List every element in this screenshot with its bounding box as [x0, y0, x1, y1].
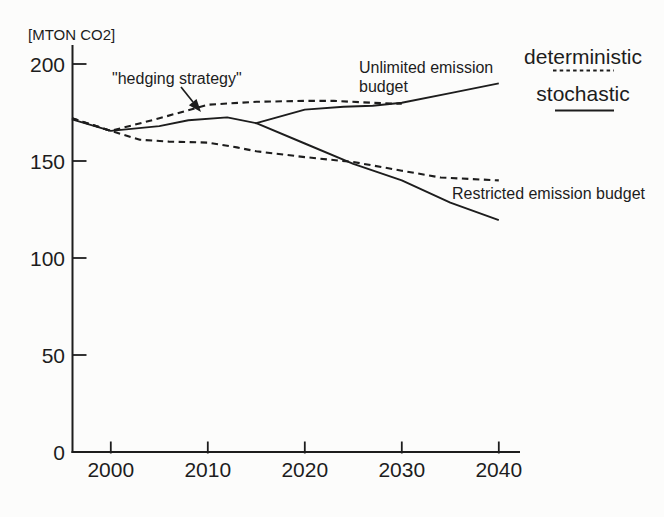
- series-line-solid-3: stochastic - hedging strategy then restr…: [256, 123, 499, 220]
- x-tick-label: 2000: [87, 458, 134, 481]
- y-tick-label: 100: [30, 247, 65, 270]
- x-tick-label: 2010: [184, 458, 231, 481]
- y-tick-label: 150: [30, 150, 65, 173]
- x-tick-label: 2040: [475, 458, 522, 481]
- series-layer: deterministic - unlimited emission budge…: [72, 83, 499, 220]
- axes-layer: [72, 45, 521, 454]
- annotation-hedging-strategy: "hedging strategy": [112, 70, 242, 87]
- legend-label-deterministic: deterministic: [524, 45, 642, 68]
- y-tick-label: 50: [42, 344, 65, 367]
- annotation-restricted-budget: Restricted emission budget: [452, 185, 646, 202]
- series-line-dashed-0: deterministic - unlimited emission budge…: [72, 101, 402, 131]
- chart-canvas: deterministic - unlimited emission budge…: [0, 0, 664, 517]
- legend: deterministic stochastic: [524, 45, 642, 111]
- y-axis-unit-label: [MTON CO2]: [28, 26, 115, 43]
- legend-label-stochastic: stochastic: [536, 82, 629, 105]
- annotation-unlimited-budget-line1: Unlimited emission: [359, 59, 493, 76]
- y-tick-label: 0: [53, 441, 65, 464]
- x-tick-label: 2020: [281, 458, 328, 481]
- y-tick-label: 200: [30, 53, 65, 76]
- annotation-unlimited-budget-line2: budget: [359, 78, 408, 95]
- x-tick-label: 2030: [378, 458, 425, 481]
- emissions-scenario-chart: deterministic - unlimited emission budge…: [0, 0, 664, 517]
- hedging-arrow-line: [181, 87, 193, 102]
